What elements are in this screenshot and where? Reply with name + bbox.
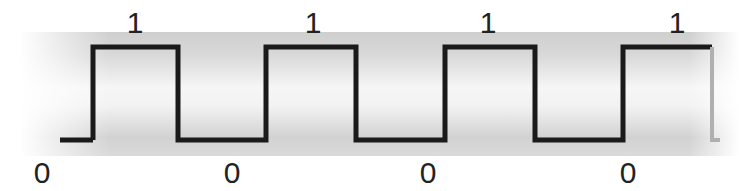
bit-label-low: 0: [420, 158, 437, 188]
bit-label-high: 1: [480, 8, 497, 38]
bit-label-low: 0: [224, 158, 241, 188]
bit-label-high: 1: [669, 8, 686, 38]
bit-label-high: 1: [127, 8, 144, 38]
bit-label-low: 0: [620, 158, 637, 188]
bit-label-high: 1: [305, 8, 322, 38]
bit-label-low: 0: [34, 158, 51, 188]
square-wave-diagram: 11110000: [0, 0, 739, 191]
signal-band: [20, 32, 739, 156]
